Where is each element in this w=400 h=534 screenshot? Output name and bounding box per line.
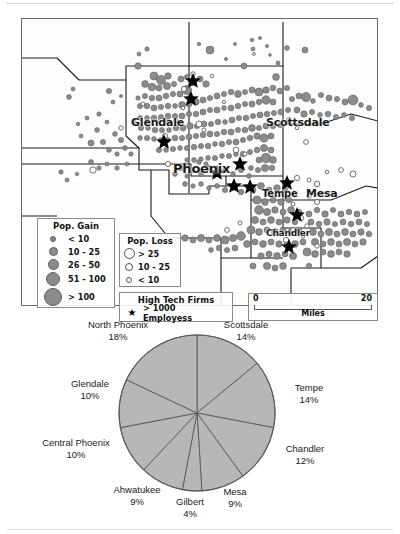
- legend-row: 26 - 50: [38, 258, 114, 271]
- page-top-rule: [6, 3, 394, 4]
- scalebar-min: 0: [253, 294, 259, 303]
- legend-row-label: > 100: [68, 292, 95, 302]
- pie-label-name: Mesa: [223, 486, 246, 497]
- pie-label-pct: 9%: [214, 498, 256, 510]
- pie-label-pct: 18%: [72, 331, 164, 343]
- map-city-label-phoenix: Phoenix: [173, 161, 230, 176]
- pop-loss-circles: [90, 53, 356, 249]
- pop-loss-circle-icon: [123, 277, 135, 283]
- pie-label-pct: 9%: [104, 496, 170, 508]
- legend-pop-loss: Pop. Loss > 25 10 - 25 < 10: [119, 233, 181, 287]
- pie-label-name: Ahwatukee: [113, 484, 160, 495]
- map-city-label-mesa: Mesa: [306, 187, 338, 200]
- pie-label-pct: 10%: [33, 449, 119, 461]
- pie-label-ahwatukee: Ahwatukee 9%: [104, 484, 170, 508]
- map-city-label-tempe: Tempe: [262, 188, 298, 199]
- pie-label-pct: 10%: [59, 390, 121, 402]
- pie-label-name: Central Phoenix: [42, 437, 110, 448]
- pie-label-glendale: Glendale 10%: [59, 378, 121, 402]
- pie-label-pct: 14%: [207, 331, 285, 343]
- legend-row: < 10: [120, 273, 180, 286]
- legend-pop-gain: Pop. Gain < 10 10 - 25 26 - 50 51 - 100 …: [37, 218, 115, 308]
- map-city-label-chandler: Chandler: [266, 228, 310, 238]
- pop-gain-dot-icon: [43, 247, 63, 256]
- pie-label-central-phoenix: Central Phoenix 10%: [33, 437, 119, 461]
- pie-label-north-phoenix: North Phoenix 18%: [72, 319, 164, 343]
- legend-pop-gain-title: Pop. Gain: [38, 219, 114, 232]
- map-city-label-scottsdale: Scottsdale: [266, 116, 330, 129]
- pie-label-mesa: Mesa 9%: [214, 486, 256, 510]
- legend-row: > 100: [38, 287, 114, 307]
- pie-label-name: Chandler: [286, 443, 325, 454]
- pie-label-chandler: Chandler 12%: [272, 443, 338, 467]
- scalebar-max: 20: [361, 294, 372, 303]
- legend-row-label: < 10: [138, 275, 159, 285]
- legend-row-label: < 10: [68, 234, 89, 244]
- pie-chart-figure: North Phoenix 18% Scottsdale 14% Tempe 1…: [0, 318, 400, 530]
- pop-loss-circle-icon: [123, 263, 135, 271]
- legend-pop-loss-title: Pop. Loss: [120, 234, 180, 247]
- scalebar-unit: Miles: [249, 309, 377, 318]
- map-scalebar: 0 20 Miles: [248, 293, 378, 321]
- scalebar-ends: 0 20: [249, 294, 377, 305]
- pie-label-name: Glendale: [71, 378, 109, 389]
- legend-row-label: 10 - 25: [138, 262, 170, 272]
- legend-row-label: 26 - 50: [68, 260, 100, 270]
- star-icon: ★: [126, 308, 138, 318]
- pie-label-pct: 14%: [281, 394, 337, 406]
- legend-row-label: 10 - 25: [68, 247, 100, 257]
- pop-gain-dot-icon: [43, 288, 63, 306]
- legend-row: > 25: [120, 247, 180, 260]
- pie-label-name: Scottsdale: [224, 319, 268, 330]
- map-figure: Glendale Phoenix Scottsdale Tempe Mesa C…: [21, 18, 378, 306]
- legend-row-label: 51 - 100: [68, 274, 106, 284]
- pie-label-pct: 12%: [272, 455, 338, 467]
- pie-slices: [119, 335, 275, 491]
- pie-label-name: North Phoenix: [88, 319, 148, 330]
- pop-loss-circle-icon: [123, 248, 135, 259]
- pop-gain-dot-icon: [43, 272, 63, 286]
- legend-row: 10 - 25: [120, 260, 180, 273]
- pie-label-gilbert: Gilbert 4%: [167, 496, 213, 520]
- legend-row: 10 - 25: [38, 245, 114, 258]
- pie-label-name: Tempe: [295, 382, 324, 393]
- legend-row: 51 - 100: [38, 271, 114, 287]
- pop-gain-dot-icon: [43, 236, 63, 242]
- scanned-page: Glendale Phoenix Scottsdale Tempe Mesa C…: [0, 0, 400, 534]
- map-city-label-glendale: Glendale: [131, 116, 184, 129]
- pop-gain-dot-icon: [43, 259, 63, 270]
- pie-label-pct: 4%: [167, 508, 213, 520]
- pie-label-scottsdale: Scottsdale 14%: [207, 319, 285, 343]
- legend-row: < 10: [38, 232, 114, 245]
- pie-label-tempe: Tempe 14%: [281, 382, 337, 406]
- pie-label-name: Gilbert: [176, 496, 204, 507]
- legend-row-label: > 25: [138, 249, 159, 259]
